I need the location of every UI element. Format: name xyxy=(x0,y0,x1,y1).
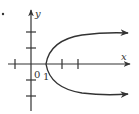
parabola-upper-branch xyxy=(46,33,128,64)
vertex-label: 1 xyxy=(43,71,49,82)
x-axis-label: x xyxy=(121,51,127,62)
bullet-dot xyxy=(2,13,4,15)
parabola-diagram: y x 0 1 xyxy=(0,0,139,114)
origin-label: 0 xyxy=(34,69,40,80)
y-axis-label: y xyxy=(34,8,41,19)
parabola-lower-branch xyxy=(46,64,128,95)
